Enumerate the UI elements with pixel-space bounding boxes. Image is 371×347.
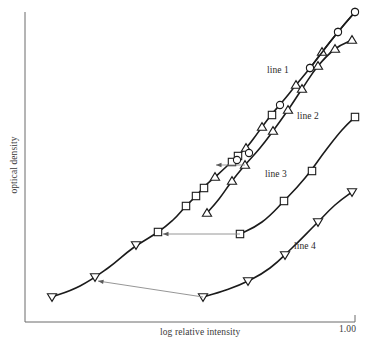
marker-square: [182, 202, 189, 209]
series-line-2: [202, 36, 356, 217]
series-line-3: [236, 113, 358, 237]
marker-triangle-up: [347, 36, 356, 44]
marker-triangle-down: [243, 278, 252, 286]
marker-circle: [306, 64, 313, 71]
series-main-curve: [47, 8, 358, 301]
shift-arrow-3: [98, 280, 203, 297]
marker-triangle-down: [198, 294, 207, 302]
marker-circle: [351, 8, 358, 15]
x-axis-label: log relative intensity: [160, 327, 240, 337]
x-axis-tick-label-right: 1.00: [339, 324, 356, 334]
marker-square: [308, 167, 315, 174]
marker-square: [351, 113, 358, 120]
chart-plot-area: [0, 0, 371, 347]
marker-square: [280, 197, 287, 204]
marker-square: [154, 228, 161, 235]
series-label-line-3: line 3: [265, 169, 287, 179]
annotation-layer: [98, 163, 245, 297]
marker-triangle-down: [47, 294, 56, 302]
series-label-line-1: line 1: [267, 65, 289, 75]
marker-triangle-down: [90, 274, 99, 282]
marker-circle: [245, 149, 252, 156]
y-axis-label: optical density: [9, 125, 19, 205]
curve-line-1: [310, 12, 355, 68]
marker-triangle-up: [283, 106, 292, 114]
marker-square: [192, 192, 199, 199]
shift-arrow-2: [163, 232, 240, 236]
marker-circle: [334, 28, 341, 35]
marker-triangle-up: [330, 45, 339, 53]
marker-circle: [276, 101, 283, 108]
marker-circle: [233, 156, 240, 163]
marker-square: [268, 111, 275, 118]
series-label-line-4: line 4: [294, 241, 316, 251]
shift-arrow-2-head: [163, 232, 169, 236]
series-line-4: [198, 189, 356, 302]
marker-square: [200, 184, 207, 191]
shift-arrow-1-head: [216, 163, 222, 167]
chart-figure: log relative intensity optical density 1…: [0, 0, 371, 347]
shift-arrow-3-head: [98, 280, 104, 284]
series-layer: [47, 8, 358, 301]
series-label-line-2: line 2: [297, 111, 319, 121]
shift-arrow-3-line: [98, 281, 203, 297]
curve-main-curve: [52, 12, 355, 297]
